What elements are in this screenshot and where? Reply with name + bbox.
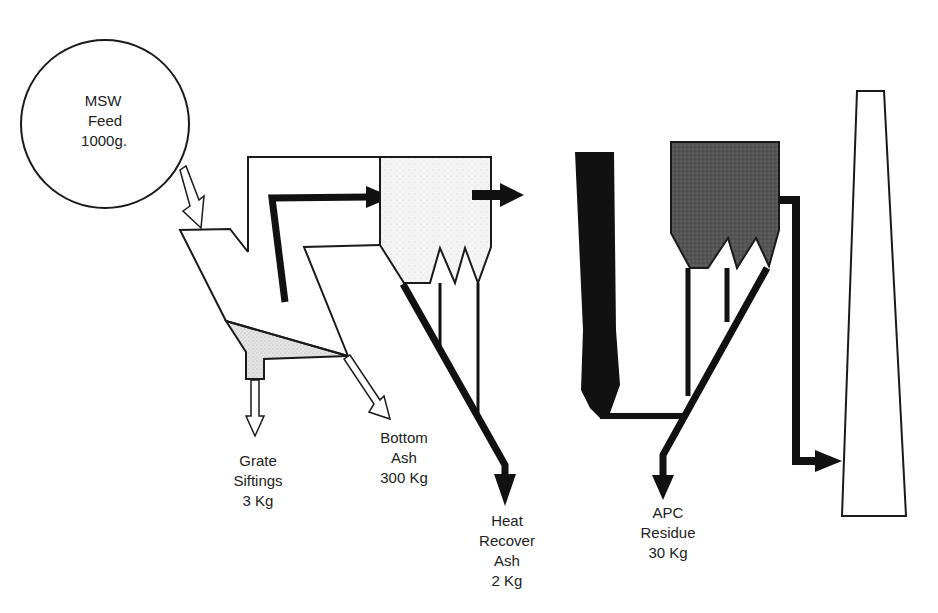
heat-recovery-line-2: Recover [479, 532, 535, 549]
feed-label-line-1: MSW [85, 92, 123, 109]
grate-siftings-line-2: Siftings [233, 472, 282, 489]
feed-arrow-icon [180, 166, 204, 228]
bottom-ash-line-1: Bottom [380, 429, 428, 446]
bottom-ash-line-2: Ash [391, 449, 417, 466]
gas-flow-arrow-icon [272, 186, 392, 302]
msw-feed-node: MSW Feed 1000g. [21, 40, 189, 208]
bottom-ash-label: Bottom Ash 300 Kg [380, 429, 428, 486]
siftings-arrow-icon [246, 380, 264, 436]
grate-siftings-line-3: 3 Kg [243, 492, 274, 509]
apc-residue-arrow-icon [652, 475, 674, 500]
feed-label-line-3: 1000g. [81, 132, 127, 149]
grate-siftings-label: Grate Siftings 3 Kg [233, 452, 282, 509]
stack [842, 91, 906, 516]
apc-residue-line-2: Residue [640, 524, 695, 541]
bottom-ash-line-3: 300 Kg [380, 469, 428, 486]
bottom-ash-arrow-icon [344, 355, 390, 419]
apc-residue-line-1: APC [653, 504, 684, 521]
apc-residue-line-3: 30 Kg [648, 544, 687, 561]
heat-recovery-line-4: 2 Kg [492, 572, 523, 589]
grate-siftings-line-1: Grate [239, 452, 277, 469]
fabric-filter [652, 142, 779, 500]
flue-duct-arrow-icon [779, 200, 842, 472]
heat-recovery-line-3: Ash [494, 552, 520, 569]
heat-recovery-ash-arrow-icon [494, 474, 516, 506]
apc-residue-label: APC Residue 30 Kg [640, 504, 695, 561]
heat-recovery-line-1: Heat [491, 512, 524, 529]
scrubber-tower [575, 152, 686, 418]
heat-recovery-ash-label: Heat Recover Ash 2 Kg [479, 512, 535, 589]
feed-label-line-2: Feed [88, 112, 122, 129]
process-diagram: MSW Feed 1000g. [0, 0, 938, 613]
